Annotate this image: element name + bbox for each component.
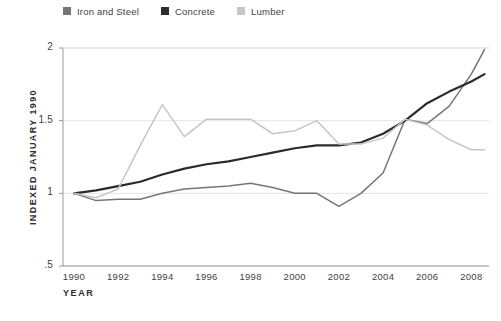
x-tick-label: 1992 (100, 271, 136, 282)
series-line (74, 74, 485, 193)
x-tick-label: 2002 (321, 271, 357, 282)
x-tick-label: 1994 (144, 271, 180, 282)
x-tick-label: 1996 (188, 271, 224, 282)
series-lines (74, 49, 485, 206)
x-tick-label: 2004 (365, 271, 401, 282)
chart-container: Iron and SteelConcreteLumber 21.51.5 199… (0, 0, 501, 321)
x-tick-label: 1990 (56, 271, 92, 282)
axis-lines (59, 48, 489, 266)
y-tick-label: .5 (25, 259, 53, 270)
y-tick-label: 2 (25, 41, 53, 52)
gridlines (63, 48, 489, 266)
x-tick-label: 2008 (453, 271, 489, 282)
y-axis-title: INDEXED JANUARY 1990 (28, 77, 38, 237)
x-axis-title: YEAR (63, 288, 94, 298)
x-tick-label: 1998 (233, 271, 269, 282)
x-tick-label: 2000 (277, 271, 313, 282)
x-tick-label: 2006 (409, 271, 445, 282)
